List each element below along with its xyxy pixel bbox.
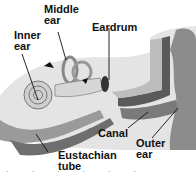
label-inner-ear-line2: ear [14, 41, 41, 52]
bottom-text-fragment: · · · · · · [6, 166, 147, 176]
label-canal-line1: Canal [98, 128, 128, 139]
label-outer-ear: Outer ear [136, 138, 165, 160]
cochlea [24, 81, 52, 109]
label-eardrum: Eardrum [92, 22, 137, 33]
middle-ear-leader [58, 32, 66, 60]
label-outer-ear-line2: ear [136, 149, 165, 160]
eardrum-membrane [101, 76, 109, 92]
label-middle-ear-line2: ear [44, 15, 79, 26]
label-canal: Canal [98, 128, 128, 139]
label-inner-ear: Inner ear [14, 30, 41, 52]
label-eardrum-line1: Eardrum [92, 22, 137, 33]
label-middle-ear: Middle ear [44, 4, 79, 26]
ear-diagram: Middle ear Inner ear Eardrum Canal Outer… [0, 0, 196, 176]
